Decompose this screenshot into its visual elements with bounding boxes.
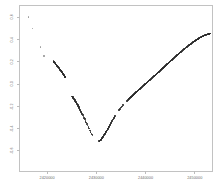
y-axis-tick-label: 0.6: [11, 14, 15, 19]
y-axis-tick-label: 0.0: [11, 81, 15, 86]
data-point: [28, 16, 29, 17]
data-point: [84, 118, 86, 120]
x-axis-tick-mark: [47, 171, 48, 174]
data-point: [32, 28, 33, 29]
data-point: [184, 48, 186, 50]
data-point: [81, 113, 83, 115]
x-axis-tick-mark: [96, 171, 97, 174]
y-axis-tick-mark: [17, 17, 20, 18]
y-axis-tick-mark: [17, 106, 20, 107]
scatter-chart-figure: 0.60.40.20.0-0.2-0.4-0.62420000243000024…: [0, 0, 221, 195]
y-axis-tick-label: 0.2: [11, 59, 15, 64]
y-axis-tick-mark: [17, 61, 20, 62]
data-point: [122, 104, 124, 106]
y-axis-tick-mark: [17, 39, 20, 40]
y-axis-tick-mark: [17, 128, 20, 129]
data-point: [85, 122, 87, 124]
x-axis-tick-mark: [194, 171, 195, 174]
data-point: [43, 55, 44, 56]
y-axis-tick-mark: [17, 150, 20, 151]
y-axis-tick-label: -0.6: [10, 148, 14, 155]
x-axis-tick-label: 2430000: [89, 177, 104, 181]
x-axis-tick-label: 2440000: [138, 177, 153, 181]
y-axis-tick-label: 0.4: [11, 37, 15, 42]
data-point: [108, 127, 110, 129]
y-axis-tick-mark: [17, 84, 20, 85]
y-axis-tick-label: -0.4: [10, 125, 14, 132]
y-axis-tick-label: -0.2: [10, 103, 14, 110]
x-axis-tick-mark: [145, 171, 146, 174]
data-points-layer: [20, 6, 212, 171]
x-axis-tick-label: 2420000: [40, 177, 55, 181]
data-point: [40, 46, 41, 47]
x-axis-tick-label: 2450000: [187, 177, 202, 181]
data-point: [65, 77, 67, 79]
data-point: [119, 108, 121, 110]
plot-frame: 0.60.40.20.0-0.2-0.4-0.62420000243000024…: [19, 5, 213, 172]
